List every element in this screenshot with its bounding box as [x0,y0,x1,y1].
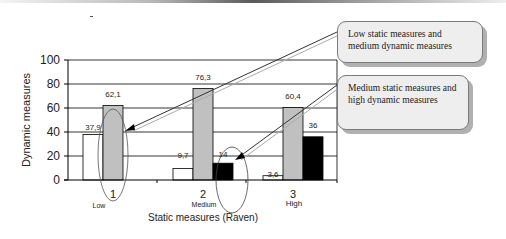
ytick-0: 0 [53,173,60,187]
y-axis-title: Dynamic measures [20,72,32,167]
label-medium-gray: 76,3 [195,73,211,82]
sublabel-high: High [286,199,302,208]
label-high-gray: 60,4 [285,92,301,101]
bar-high-gray [283,108,303,181]
ytick-60: 60 [47,101,61,115]
arrow-to-low [125,32,339,132]
label-low-white: 37,9 [85,123,101,132]
ytick-80: 80 [47,77,61,91]
bar-low-white [83,135,103,181]
category-2: 2 [200,188,206,200]
callout-text: Low static measures and medium dynamic m… [348,29,452,51]
bar-low-gray [103,106,123,181]
bar-group-medium [173,88,233,180]
bar-group-low [83,106,123,181]
ytick-40: 40 [47,125,61,139]
ytick-100: 100 [40,53,60,67]
ytick-20: 20 [47,149,61,163]
bar-high-black [303,137,323,180]
sublabel-medium: Medium [192,201,217,208]
bar-medium-white [173,168,193,180]
label-low-gray: 62,1 [105,90,121,99]
x-axis-title: Static measures (Raven) [148,212,258,223]
category-1: 1 [110,188,116,200]
callout-low-static-medium-dynamic: Low static measures and medium dynamic m… [337,21,483,63]
callout-medium-static-high-dynamic: Medium static measures and high dynamic … [337,75,469,130]
label-high-black: 36 [309,121,318,130]
callout-text: Medium static measures and high dynamic … [348,83,456,105]
label-high-white: 3,6 [267,170,279,179]
sublabel-low: Low [93,202,107,209]
label-medium-white: 9,7 [177,151,189,160]
